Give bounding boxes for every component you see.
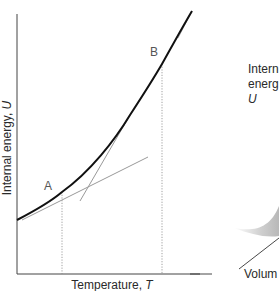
y-axis-label: Internal energy, U [0,100,14,195]
z-axis-label-line2: energ [248,77,279,91]
z-axis-label-line3: U [248,92,257,106]
volume-axis-label: Volum [244,267,277,281]
point-label-a: A [44,179,52,193]
energy-surface [234,206,279,237]
x-axis-label: Temperature, T [71,278,154,291]
z-axis-label-line1: Intern [248,62,279,76]
tangent-line-a [22,157,148,220]
diagram-canvas: A B Internal energy, U Temperature, T In… [0,0,279,291]
volume-axis [239,238,279,269]
point-label-b: B [150,45,158,59]
